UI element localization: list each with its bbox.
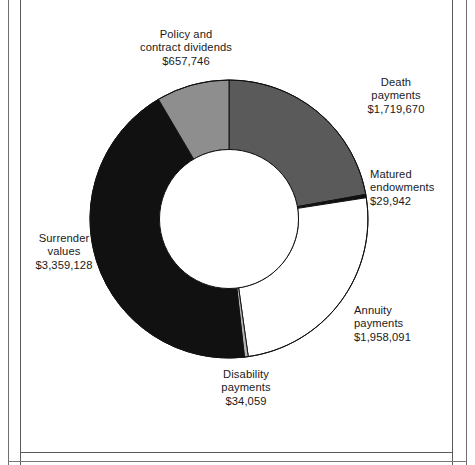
slice-label-value: $1,719,670 <box>332 103 460 116</box>
figure-page: Policy and contract dividends $657,746 D… <box>0 0 475 465</box>
slice-label-line-1: Disability <box>186 368 306 381</box>
slice-label-surrender-values: Surrender values $3,359,128 <box>8 232 120 272</box>
slice-label-annuity-payments: Annuity payments $1,958,091 <box>354 304 466 344</box>
donut-chart: Policy and contract dividends $657,746 D… <box>0 0 475 465</box>
slice-label-value: $34,059 <box>186 395 306 408</box>
slice-label-disability-payments: Disability payments $34,059 <box>186 368 306 408</box>
slice-label-matured-endowments: Matured endowments $29,942 <box>370 168 474 208</box>
slice-label-line-2: endowments <box>370 181 474 194</box>
slice-label-line-1: Matured <box>370 168 474 181</box>
slice-label-line-1: Policy and <box>112 28 260 41</box>
slice-label-death-payments: Death payments $1,719,670 <box>332 76 460 116</box>
slice-label-line-2: contract dividends <box>112 41 260 54</box>
slice-label-line-1: Surrender <box>8 232 120 245</box>
slice-label-line-2: payments <box>332 89 460 102</box>
donut-inner-hole <box>160 150 299 289</box>
slice-label-value: $1,958,091 <box>354 331 466 344</box>
slice-label-line-2: values <box>8 245 120 258</box>
slice-label-value: $3,359,128 <box>8 259 120 272</box>
slice-label-line-1: Death <box>332 76 460 89</box>
slice-label-line-2: payments <box>186 381 306 394</box>
slice-label-policy-contract-dividends: Policy and contract dividends $657,746 <box>112 28 260 68</box>
slice-label-line-1: Annuity <box>354 304 466 317</box>
slice-label-value: $657,746 <box>112 55 260 68</box>
slice-label-line-2: payments <box>354 317 466 330</box>
slice-label-value: $29,942 <box>370 195 474 208</box>
